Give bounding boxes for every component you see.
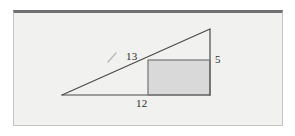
- figure-root: 13 5 12: [0, 0, 295, 136]
- shaded-rectangle: [148, 60, 210, 95]
- vertical-leg-length-label: 5: [215, 54, 221, 65]
- hypotenuse-length-label: 13: [126, 51, 137, 62]
- hypotenuse-tick-mark-icon: [108, 53, 116, 62]
- geometry-diagram: [0, 0, 295, 136]
- horizontal-leg-length-label: 12: [136, 98, 147, 109]
